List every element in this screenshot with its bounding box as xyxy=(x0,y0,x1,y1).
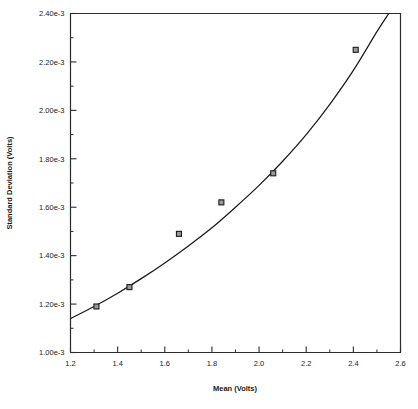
data-point-marker xyxy=(353,47,358,52)
y-tick-label: 1.00e-3 xyxy=(39,348,64,357)
scatter-plot-svg: 1.21.41.61.82.02.22.42.6 1.00e-31.20e-31… xyxy=(0,0,418,409)
x-tick-label: 1.8 xyxy=(207,359,217,368)
y-tick-label: 2.40e-3 xyxy=(39,9,64,18)
chart-figure: 1.21.41.61.82.02.22.42.6 1.00e-31.20e-31… xyxy=(0,0,418,409)
x-tick-label: 2.4 xyxy=(348,359,358,368)
y-tick-label: 1.60e-3 xyxy=(39,203,64,212)
data-point-marker xyxy=(176,231,181,236)
y-axis-title: Standard Deviation (Volts) xyxy=(5,136,14,230)
y-tick-label: 2.20e-3 xyxy=(39,58,64,67)
x-tick-label: 2.6 xyxy=(395,359,405,368)
x-tick-label: 1.2 xyxy=(65,359,75,368)
y-tick-label: 1.40e-3 xyxy=(39,251,64,260)
x-tick-label: 1.6 xyxy=(160,359,170,368)
y-tick-label: 1.80e-3 xyxy=(39,155,64,164)
y-tick-label: 2.00e-3 xyxy=(39,106,64,115)
x-axis-title: Mean (Volts) xyxy=(213,384,258,393)
x-tick-label: 2.2 xyxy=(301,359,311,368)
data-point-marker xyxy=(127,285,132,290)
data-point-marker xyxy=(219,200,224,205)
x-tick-label: 2.0 xyxy=(254,359,264,368)
data-point-marker xyxy=(94,304,99,309)
data-point-marker xyxy=(271,171,276,176)
x-tick-label: 1.4 xyxy=(112,359,122,368)
y-tick-label: 1.20e-3 xyxy=(39,300,64,309)
